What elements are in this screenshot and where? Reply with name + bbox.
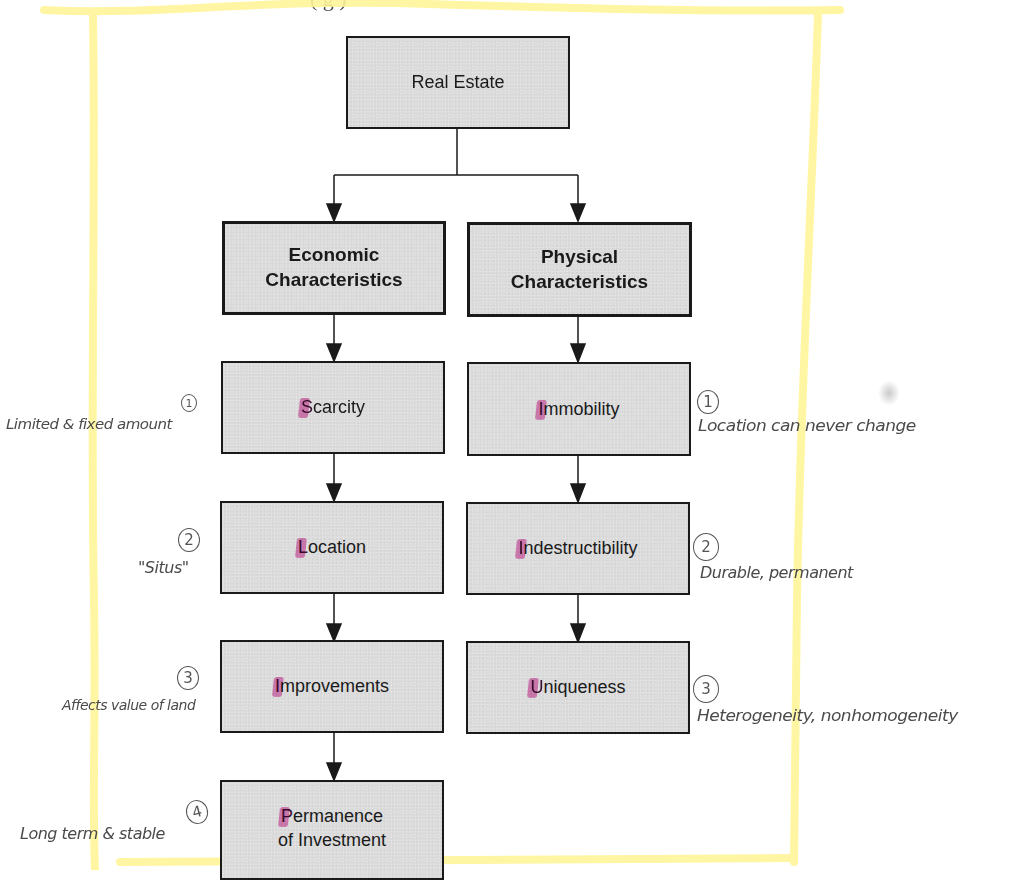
annotation-number-circle: 1 [697,390,719,414]
node-indestructibility: Indestructibility [466,502,690,595]
node-label-rest: mprovements [280,676,389,696]
node-label-line2: of Investment [278,830,386,850]
branch-economic-characteristics: Economic Characteristics [222,221,446,315]
branch-title-line1: Economic [289,244,380,265]
annotation-permanence: Long term & stable [20,824,165,842]
node-permanence-of-investment: Permanenceof Investment [220,780,444,880]
node-improvements: Improvements [220,640,444,733]
node-label-rest: ocation [308,537,366,557]
branch-title-line2: Characteristics [511,271,648,292]
highlighted-initial: S [301,397,313,417]
annotation-indestructibility: Durable, permanent [700,563,853,581]
node-label-rest: carcity [313,397,365,417]
node-label-rest: ndestructibility [523,538,637,558]
node-uniqueness: Uniqueness [466,641,690,734]
node-label-rest: ermanence [293,806,383,826]
highlighted-initial: I [538,399,543,419]
highlighted-initial: I [518,538,523,558]
node-label-rest: niqueness [543,677,625,697]
paper-smudge [878,380,900,406]
annotation-number-circle: 3 [693,675,719,703]
node-scarcity: Scarcity [221,361,445,454]
highlighted-initial: I [275,676,280,696]
branch-physical-characteristics: Physical Characteristics [467,222,692,317]
highlighted-initial: L [298,537,308,557]
root-node-label: Real Estate [411,70,504,94]
annotation-immobility: Location can never change [698,416,916,435]
annotation-number-circle: 2 [693,533,719,561]
branch-title-line2: Characteristics [265,269,402,290]
annotation-number-circle: 1 [181,394,197,412]
annotation-scarcity: Limited & fixed amount [6,415,172,432]
node-immobility: Immobility [467,362,691,456]
highlighted-initial: P [281,806,293,826]
branch-title-line1: Physical [541,246,618,267]
annotation-uniqueness: Heterogeneity, nonhomogeneity [697,706,958,725]
highlighted-initial: U [530,677,543,697]
annotation-number-circle: 2 [178,528,200,552]
annotation-location: "Situs" [138,558,189,576]
annotation-improvements: Affects value of land [62,697,195,712]
node-location: Location [220,501,444,594]
root-node-real-estate: Real Estate [346,36,570,129]
node-label-rest: mmobility [544,399,620,419]
annotation-number-circle: 3 [177,666,199,690]
